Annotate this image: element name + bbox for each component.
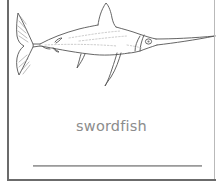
frame-border-left <box>7 0 9 181</box>
jaw-line <box>129 45 157 53</box>
swordfish-line-drawing-svg <box>9 0 223 100</box>
bill-lower-edge <box>157 36 215 45</box>
gill-cover-line-2 <box>140 35 144 51</box>
handwriting-line <box>33 165 202 167</box>
head-top-line <box>116 27 156 39</box>
head-detail-line <box>127 45 142 48</box>
word-label: swordfish <box>0 118 223 134</box>
eye <box>145 39 151 44</box>
flashcard: swordfish <box>0 0 223 188</box>
pectoral-fin <box>105 53 121 86</box>
body-bottom-line <box>40 46 129 55</box>
dorsal-detail-line-2 <box>79 36 127 41</box>
gill-cover-line <box>135 36 140 51</box>
pelvic-fin <box>77 54 85 68</box>
frame-border-bottom <box>7 179 216 181</box>
peduncle-bottom <box>33 46 40 47</box>
second-dorsal-finlet <box>55 38 62 43</box>
lateral-line <box>45 44 117 46</box>
frame-border-right <box>214 0 215 180</box>
swordfish-illustration <box>9 0 223 100</box>
dorsal-fin <box>98 3 116 27</box>
